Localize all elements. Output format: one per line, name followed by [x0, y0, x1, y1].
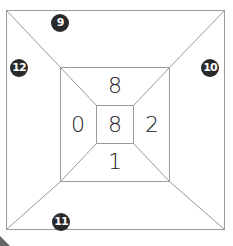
badge-left: 12 — [10, 59, 28, 77]
diagonal-top-right-outer — [170, 11, 225, 68]
middle-right-number: 2 — [140, 113, 164, 137]
middle-top-number: 8 — [103, 74, 127, 98]
diagonal-top-left-inner — [61, 68, 97, 106]
badge-bottom: 11 — [52, 213, 70, 231]
diagonal-bottom-right-inner — [134, 144, 170, 182]
badge-right: 10 — [201, 59, 219, 77]
corner-artifact — [0, 236, 10, 246]
center-number: 8 — [103, 113, 127, 137]
diagonal-bottom-left-inner — [61, 144, 97, 182]
badge-top: 9 — [51, 14, 69, 32]
diagonal-top-right-inner — [134, 68, 170, 106]
middle-bottom-number: 1 — [103, 150, 127, 174]
diagonal-bottom-right-outer — [170, 182, 225, 230]
middle-left-number: 0 — [66, 113, 90, 137]
